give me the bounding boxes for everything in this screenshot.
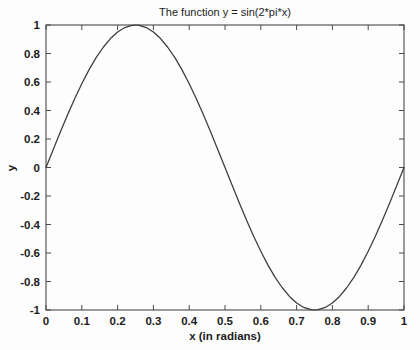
x-tick-label: 0.7 bbox=[289, 315, 305, 327]
sine-curve bbox=[46, 25, 404, 310]
y-tick-label: 0.8 bbox=[24, 48, 41, 60]
x-tick-label: 0 bbox=[43, 315, 49, 327]
x-axis-label: x (in radians) bbox=[189, 330, 261, 342]
y-tick-label: 1 bbox=[34, 19, 41, 31]
y-tick-label: -0.4 bbox=[20, 219, 40, 231]
y-tick-labels: -1-0.8-0.6-0.4-0.200.20.40.60.81 bbox=[20, 19, 40, 316]
x-tick-label: 0.5 bbox=[217, 315, 234, 327]
x-tick-label: 0.1 bbox=[74, 315, 91, 327]
y-axis-label: y bbox=[5, 164, 17, 171]
x-tick-label: 1 bbox=[401, 315, 408, 327]
y-tick-label: 0.2 bbox=[24, 133, 40, 145]
x-tick-label: 0.6 bbox=[253, 315, 269, 327]
sine-plot: The function y = sin(2*pi*x) 00.10.20.30… bbox=[0, 0, 420, 350]
y-tick-label: -0.6 bbox=[20, 247, 40, 259]
y-tick-label: -0.2 bbox=[20, 190, 40, 202]
y-tick-label: -1 bbox=[30, 304, 41, 316]
x-tick-label: 0.8 bbox=[324, 315, 341, 327]
x-tick-labels: 00.10.20.30.40.50.60.70.80.91 bbox=[43, 315, 408, 327]
y-tick-label: -0.8 bbox=[20, 276, 40, 288]
x-tick-label: 0.9 bbox=[360, 315, 376, 327]
x-tick-label: 0.2 bbox=[110, 315, 126, 327]
y-tick-label: 0 bbox=[34, 162, 40, 174]
x-tick-label: 0.4 bbox=[181, 315, 198, 327]
x-tick-label: 0.3 bbox=[145, 315, 161, 327]
y-tick-label: 0.6 bbox=[24, 76, 40, 88]
figure-canvas: The function y = sin(2*pi*x) 00.10.20.30… bbox=[0, 0, 420, 350]
y-tick-label: 0.4 bbox=[24, 105, 41, 117]
chart-title: The function y = sin(2*pi*x) bbox=[159, 6, 291, 18]
